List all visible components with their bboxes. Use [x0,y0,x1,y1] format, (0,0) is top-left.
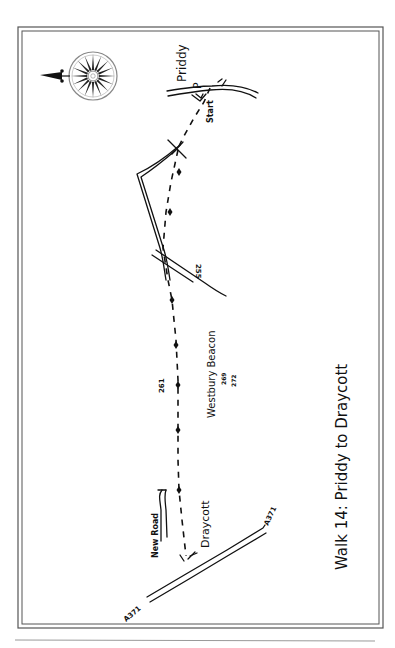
route-waymark [170,296,175,304]
draycott-label: Draycott [199,500,212,548]
compass-spoke [71,75,87,77]
parking-label: P [191,82,204,89]
route-waymark [176,426,181,434]
walk-map: Priddy P Start 255 261 Westbury Beacon 2… [0,0,395,648]
a371-north-label: A371 [263,505,279,527]
route-waymark [177,486,182,494]
spot-height-255: 255 [194,264,202,279]
spot-height-272: 272 [230,374,237,387]
north-arrow-icon [40,69,70,83]
map-title: Walk 14: Priddy to Draycott [333,364,351,570]
compass-spoke [92,82,94,98]
road-to-255 [137,140,226,296]
a371-south-label: A371 [122,604,143,623]
priddy-label: Priddy [175,44,189,82]
start-label: Start [206,100,215,123]
westbury-beacon-label: Westbury Beacon [206,330,217,418]
spot-height-269: 269 [220,372,227,385]
compass-spoke [99,75,115,77]
route-waymark [174,341,179,349]
compass-rose-icon [69,52,117,100]
bottom-separator [15,640,375,641]
route-waymark [176,381,181,389]
compass-spoke [92,54,94,70]
new-road-label: New Road [151,513,160,558]
route-waymark [168,208,173,216]
spot-height-261: 261 [158,378,166,393]
route-waymark [177,168,182,176]
